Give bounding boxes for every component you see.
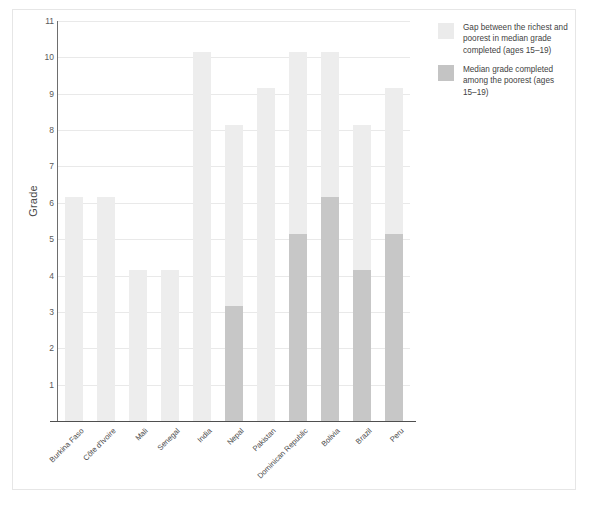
bar-segment-gap[interactable] (225, 125, 243, 307)
y-tick-label: 3 (34, 308, 54, 317)
y-tick-label: 4 (34, 272, 54, 281)
bar-group[interactable] (97, 197, 115, 421)
bar-segment-gap[interactable] (161, 270, 179, 421)
bar-segment-gap[interactable] (385, 88, 403, 233)
chart-legend: Gap between the richest and poorest in m… (438, 22, 568, 106)
bar-group[interactable] (225, 125, 243, 421)
bar-group[interactable] (321, 52, 339, 421)
y-axis-origin-tick (50, 421, 58, 422)
y-tick-label: 8 (34, 126, 54, 135)
bar-segment-gap[interactable] (289, 52, 307, 234)
bar-group[interactable] (289, 52, 307, 421)
gridline (58, 21, 410, 22)
bar-segment-poorest[interactable] (225, 306, 243, 421)
bar-segment-gap[interactable] (65, 197, 83, 421)
bar-segment-poorest[interactable] (385, 234, 403, 421)
bar-segment-poorest[interactable] (353, 270, 371, 421)
gridline (58, 94, 410, 95)
y-tick-label: 9 (34, 90, 54, 99)
legend-item[interactable]: Median grade completed among the poorest… (438, 64, 568, 98)
y-tick-label: 2 (34, 344, 54, 353)
bar-group[interactable] (385, 88, 403, 421)
bar-group[interactable] (129, 270, 147, 421)
y-tick-label: 7 (34, 162, 54, 171)
bar-group[interactable] (161, 270, 179, 421)
y-axis-ticks: 1234567891011 (28, 21, 54, 421)
chart-figure: Grade 1234567891011 Burkina FasoCôte d'I… (0, 0, 589, 510)
legend-label: Gap between the richest and poorest in m… (463, 22, 568, 56)
y-tick-label: 5 (34, 235, 54, 244)
bar-group[interactable] (193, 52, 211, 421)
y-tick-label: 1 (34, 381, 54, 390)
bar-segment-poorest[interactable] (321, 197, 339, 421)
bar-segment-gap[interactable] (257, 88, 275, 421)
plot-area (58, 21, 410, 421)
bar-segment-gap[interactable] (321, 52, 339, 197)
bar-segment-gap[interactable] (97, 197, 115, 421)
x-axis-line (50, 421, 416, 422)
bar-group[interactable] (257, 88, 275, 421)
legend-label: Median grade completed among the poorest… (463, 64, 568, 98)
bar-segment-poorest[interactable] (289, 234, 307, 421)
bar-group[interactable] (353, 125, 371, 421)
y-tick-label: 6 (34, 199, 54, 208)
gridline (58, 57, 410, 58)
y-tick-label: 11 (34, 17, 54, 26)
legend-item[interactable]: Gap between the richest and poorest in m… (438, 22, 568, 56)
bar-segment-gap[interactable] (129, 270, 147, 421)
bar-segment-gap[interactable] (353, 125, 371, 270)
bar-segment-gap[interactable] (193, 52, 211, 421)
bar-group[interactable] (65, 197, 83, 421)
y-tick-label: 10 (34, 53, 54, 62)
legend-swatch-poorest (438, 65, 454, 81)
legend-swatch-gap (438, 23, 454, 39)
